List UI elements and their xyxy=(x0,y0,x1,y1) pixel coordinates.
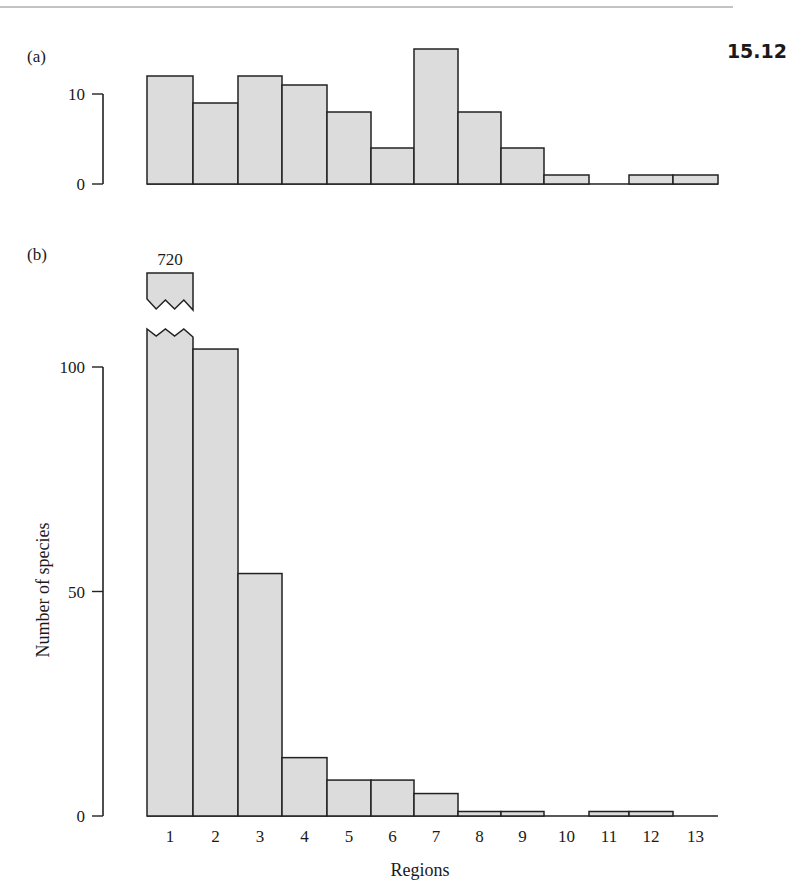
y-tick-label: 10 xyxy=(68,85,85,104)
y-axis-title: Number of species xyxy=(33,523,53,658)
x-axis-title: Regions xyxy=(390,860,449,880)
x-tick-label: 5 xyxy=(345,827,354,846)
bar xyxy=(414,49,458,184)
bar xyxy=(501,812,544,816)
bar-value-annotation: 720 xyxy=(157,250,183,269)
figure-canvas: 15.12 (a) 010 (b) 050100 720 12345678910… xyxy=(0,0,795,883)
panel-a-bars xyxy=(147,49,718,184)
figure-number: 15.12 xyxy=(727,40,787,62)
panel-b-y-axis: 050100 xyxy=(60,358,104,826)
bar xyxy=(282,758,327,816)
x-tick-label: 4 xyxy=(300,827,309,846)
y-tick-label: 0 xyxy=(77,807,86,826)
panel-b-bars: 720 xyxy=(147,250,718,816)
x-tick-label: 7 xyxy=(432,827,441,846)
bar xyxy=(544,175,589,184)
bar xyxy=(238,76,282,184)
x-tick-label: 2 xyxy=(211,827,220,846)
x-tick-label: 8 xyxy=(475,827,484,846)
panel-b-chart: (b) 050100 720 12345678910111213 Regions… xyxy=(27,245,718,880)
panel-a-label: (a) xyxy=(27,47,46,66)
x-tick-label: 13 xyxy=(687,827,704,846)
bar xyxy=(371,780,414,816)
x-tick-label: 3 xyxy=(256,827,265,846)
y-tick-label: 50 xyxy=(68,583,85,602)
y-tick-label: 100 xyxy=(60,358,86,377)
bar xyxy=(282,85,327,184)
x-tick-label: 1 xyxy=(166,827,175,846)
x-tick-label: 6 xyxy=(388,827,397,846)
bar xyxy=(147,76,193,184)
bar xyxy=(238,574,282,816)
bar xyxy=(327,112,371,184)
x-tick-label: 9 xyxy=(518,827,527,846)
bar xyxy=(193,349,238,816)
bar xyxy=(193,103,238,184)
bar-broken-upper xyxy=(147,273,193,310)
y-tick-label: 0 xyxy=(77,175,86,194)
x-tick-label: 10 xyxy=(558,827,575,846)
bar xyxy=(371,148,414,184)
bar-broken-lower xyxy=(147,329,193,816)
x-tick-label: 11 xyxy=(601,827,617,846)
bar xyxy=(589,812,629,816)
panel-b-x-tick-labels: 12345678910111213 xyxy=(166,827,704,846)
bar xyxy=(327,780,371,816)
bar xyxy=(458,112,501,184)
bar xyxy=(629,175,673,184)
bar xyxy=(629,812,673,816)
bar xyxy=(673,175,718,184)
panel-a-chart: (a) 010 xyxy=(27,47,718,194)
bar xyxy=(414,794,458,816)
panel-a-y-axis: 010 xyxy=(68,85,103,194)
x-tick-label: 12 xyxy=(643,827,660,846)
bar xyxy=(458,812,501,816)
bar xyxy=(501,148,544,184)
panel-b-label: (b) xyxy=(27,245,47,264)
